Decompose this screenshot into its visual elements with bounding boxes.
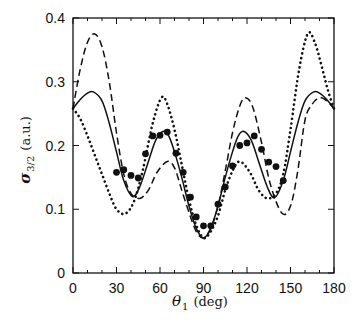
- x-tick-label: 0: [69, 280, 77, 296]
- x-tick-label: 150: [279, 280, 303, 296]
- data-point-marker: [236, 142, 243, 149]
- curve-solid: [73, 91, 334, 238]
- plot-frame: [73, 18, 334, 273]
- data-point-marker: [265, 159, 272, 166]
- data-point-marker: [113, 169, 120, 176]
- y-tick-label: 0.2: [46, 138, 66, 154]
- data-point-marker: [164, 129, 171, 136]
- y-tick-label: 0.3: [46, 74, 66, 90]
- data-point-marker: [187, 194, 194, 201]
- data-point-marker: [142, 150, 149, 157]
- data-point-marker: [193, 214, 200, 221]
- data-point-marker: [258, 146, 265, 153]
- data-point-marker: [215, 201, 222, 208]
- data-point-marker: [251, 133, 258, 140]
- y-tick-label: 0.1: [46, 201, 66, 217]
- data-point-marker: [149, 133, 156, 140]
- data-point-marker: [173, 150, 180, 157]
- y-axis-title: σ3/2(a.u.): [16, 116, 36, 184]
- x-tick-label: 180: [322, 280, 346, 296]
- x-tick-label: 60: [152, 280, 168, 296]
- data-point-marker: [229, 163, 236, 170]
- data-point-marker: [207, 222, 214, 229]
- y-tick-label: 0.4: [46, 10, 66, 26]
- plot-series: [73, 32, 334, 238]
- chart: 0306090120150180 00.10.20.30.4 θ1(deg) σ…: [0, 0, 360, 333]
- data-point-marker: [120, 166, 127, 173]
- data-point-marker: [157, 132, 164, 139]
- data-markers: [113, 129, 287, 230]
- data-point-marker: [135, 175, 142, 182]
- axis-ticks: [73, 18, 334, 273]
- y-tick-labels: 00.10.20.30.4: [46, 10, 66, 281]
- x-tick-label: 120: [235, 280, 259, 296]
- data-point-marker: [280, 177, 287, 184]
- data-point-marker: [128, 172, 135, 179]
- data-point-marker: [244, 140, 251, 147]
- y-tick-label: 0: [57, 265, 65, 281]
- data-point-marker: [273, 163, 280, 170]
- data-point-marker: [180, 169, 187, 176]
- data-point-marker: [222, 184, 229, 191]
- x-axis-title: θ1(deg): [172, 292, 228, 312]
- data-point-marker: [200, 222, 207, 229]
- x-tick-label: 30: [109, 280, 125, 296]
